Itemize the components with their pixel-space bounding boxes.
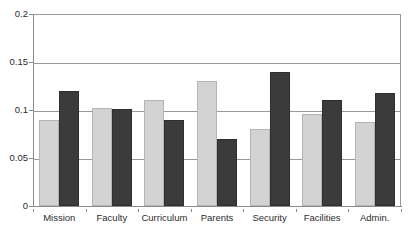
bar [39, 120, 59, 206]
bar [375, 93, 395, 206]
x-axis-category-label: Curriculum [141, 213, 187, 223]
x-axis-tick-mark [191, 209, 192, 212]
x-axis-tick-mark [33, 209, 34, 212]
bar [217, 139, 237, 206]
bar [144, 100, 164, 206]
x-axis-tick-mark [86, 209, 87, 212]
x-axis-category-label: Faculty [97, 213, 128, 223]
bar [59, 91, 79, 206]
bar [92, 108, 112, 206]
y-axis-tick-mark [29, 158, 33, 159]
bar-chart: 00.050.10.150.2 MissionFacultyCurriculum… [0, 0, 410, 232]
y-axis-tick-label: 0.15 [0, 57, 28, 67]
x-axis-category-label: Security [252, 213, 286, 223]
x-axis-category-label: Facilities [304, 213, 341, 223]
bar [302, 114, 322, 206]
y-axis-tick-label: 0 [0, 201, 28, 211]
x-axis-category-label: Parents [201, 213, 234, 223]
bar [250, 129, 270, 206]
x-axis-category-label: Admin. [360, 213, 390, 223]
y-axis-tick-mark [29, 206, 33, 207]
y-axis-tick-mark [29, 110, 33, 111]
y-axis-tick-mark [29, 14, 33, 15]
x-axis-tick-labels: MissionFacultyCurriculumParentsSecurityF… [33, 209, 401, 231]
bars-layer [33, 14, 401, 206]
x-axis-tick-mark [243, 209, 244, 212]
bar [322, 100, 342, 206]
x-axis-tick-mark [138, 209, 139, 212]
bar [164, 120, 184, 206]
y-axis-tick-label: 0.2 [0, 9, 28, 19]
y-axis-tick-labels: 00.050.10.150.2 [0, 0, 28, 232]
x-axis-category-label: Mission [43, 213, 75, 223]
bar [197, 81, 217, 206]
x-axis-tick-mark [401, 209, 402, 212]
y-axis-tick-label: 0.1 [0, 105, 28, 115]
bar [270, 72, 290, 206]
y-axis-tick-mark [29, 62, 33, 63]
bar [355, 122, 375, 206]
bar [112, 109, 132, 206]
x-axis-tick-mark [296, 209, 297, 212]
x-axis-line [33, 206, 402, 207]
x-axis-tick-mark [348, 209, 349, 212]
y-axis-tick-label: 0.05 [0, 153, 28, 163]
